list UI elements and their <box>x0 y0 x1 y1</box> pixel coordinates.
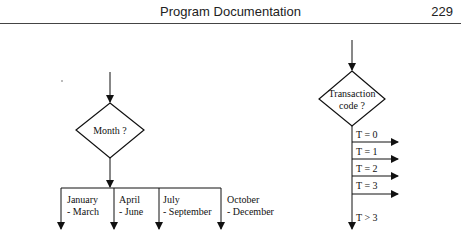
month-decision-label: Month ? <box>93 125 127 136</box>
speck <box>61 80 63 82</box>
flowcharts: Month ? January - March April - June Jul… <box>0 0 461 235</box>
tx-branch-label-3: T = 3 <box>356 180 378 191</box>
tx-branch-label-1: T = 1 <box>356 146 378 157</box>
branch-q4-label1: October <box>227 194 260 205</box>
tx-default-label: T > 3 <box>356 212 378 223</box>
branch-q3-label1: July <box>163 194 180 205</box>
month-flowchart: Month ? January - March April - June Jul… <box>61 72 275 229</box>
transaction-flowchart: Transaction code ? T > 3 T = 0 T = 1 T =… <box>319 40 398 229</box>
tx-branch-label-0: T = 0 <box>356 129 378 140</box>
tx-branch-label-2: T = 2 <box>356 163 378 174</box>
branch-q2-label1: April <box>119 194 140 205</box>
branch-q4-label2: - December <box>227 206 275 217</box>
branch-q1-label2: - March <box>67 206 99 217</box>
tx-decision-label-1: Transaction <box>329 88 376 99</box>
branch-q1-label1: January <box>67 194 98 205</box>
tx-decision-label-2: code ? <box>339 100 365 111</box>
branch-q2-label2: - June <box>119 206 144 217</box>
branch-q3-label2: - September <box>163 206 212 217</box>
